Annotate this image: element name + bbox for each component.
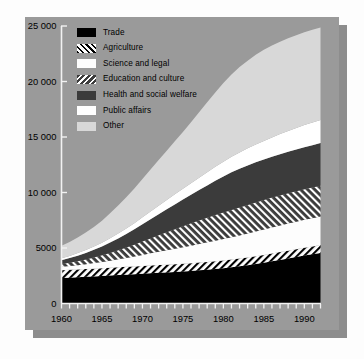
y-tick-label: 10 000 bbox=[28, 188, 57, 197]
y-tick-label: 0 bbox=[51, 299, 56, 308]
legend-item-trade: Trade bbox=[77, 25, 197, 41]
y-tick-label: 15 000 bbox=[28, 132, 57, 141]
legend-item-education-and-culture: Education and culture bbox=[77, 72, 197, 88]
legend-item-other: Other bbox=[77, 119, 197, 135]
chart-legend: TradeAgricultureScience and legalEducati… bbox=[77, 25, 197, 134]
legend-swatch-icon bbox=[77, 44, 96, 53]
x-tick-label: 1975 bbox=[172, 314, 193, 323]
legend-swatch-icon bbox=[77, 75, 96, 84]
x-tick-label: 1980 bbox=[213, 314, 234, 323]
y-tick-label: 5000 bbox=[36, 243, 57, 252]
legend-swatch-icon bbox=[77, 28, 96, 37]
legend-item-label: Education and culture bbox=[103, 75, 184, 83]
legend-swatch-icon bbox=[77, 122, 96, 131]
y-tick-label: 20 000 bbox=[28, 77, 57, 86]
x-tick-label: 1960 bbox=[51, 314, 72, 323]
legend-item-science-and-legal: Science and legal bbox=[77, 56, 197, 72]
legend-item-health-and-social-welfare: Health and social welfare bbox=[77, 87, 197, 103]
legend-item-label: Health and social welfare bbox=[103, 91, 197, 99]
x-tick-label: 1970 bbox=[132, 314, 153, 323]
x-axis-ticks bbox=[62, 304, 321, 309]
legend-item-public-affairs: Public affairs bbox=[77, 103, 197, 119]
legend-item-label: Other bbox=[103, 122, 124, 130]
x-tick-label: 1985 bbox=[253, 314, 274, 323]
x-tick-label: 1990 bbox=[294, 314, 315, 323]
legend-item-label: Science and legal bbox=[103, 60, 169, 68]
y-tick-label: 25 000 bbox=[28, 21, 57, 30]
legend-swatch-icon bbox=[77, 59, 96, 68]
legend-item-agriculture: Agriculture bbox=[77, 41, 197, 57]
legend-item-label: Public affairs bbox=[103, 107, 151, 115]
legend-swatch-icon bbox=[77, 106, 96, 115]
x-tick-label: 1965 bbox=[92, 314, 113, 323]
legend-swatch-icon bbox=[77, 91, 96, 100]
legend-item-label: Trade bbox=[103, 29, 125, 37]
legend-item-label: Agriculture bbox=[103, 44, 143, 52]
